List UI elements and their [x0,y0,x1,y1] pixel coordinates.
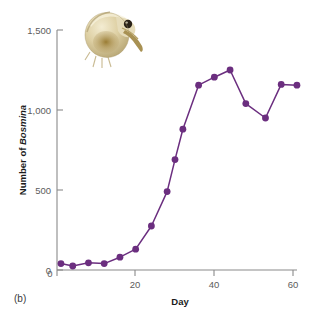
x-axis-title: Day [171,296,189,307]
data-point [85,259,92,266]
data-point [179,126,186,133]
data-point [148,223,155,230]
y-tick-label-500: 500 [35,185,51,196]
data-line [61,70,297,266]
data-point [242,100,249,107]
data-point [262,115,269,122]
data-point [211,74,218,81]
y-axis-title-italic: Bosmina [17,105,28,145]
y-axis-ticks: 1,500 1,000 500 0 [27,25,63,276]
data-point [294,82,301,89]
data-point [227,67,234,74]
data-point [278,81,285,88]
y-axis-title-plain: Number of [17,145,28,195]
y-axis-title: Number of Bosmina [17,105,28,195]
data-point [195,82,202,89]
data-point [69,263,76,270]
data-point [58,260,65,267]
x-tick-label-20: 20 [130,279,141,290]
data-point [132,246,139,253]
x-axis-ticks: 0 20 40 60 [47,268,298,290]
panel-label: (b) [14,293,26,304]
y-tick-label-1500: 1,500 [27,25,51,36]
data-point [117,254,124,261]
data-point [164,188,171,195]
data-series-bosmina [58,67,301,270]
y-tick-label-1000: 1,000 [27,105,51,116]
x-tick-label-0: 0 [47,268,52,279]
x-tick-label-40: 40 [209,279,220,290]
chart-figure: 1,500 1,000 500 0 0 20 40 60 Number of B… [0,0,313,318]
data-point [101,260,108,267]
data-point [172,156,179,163]
x-tick-label-60: 60 [288,279,299,290]
